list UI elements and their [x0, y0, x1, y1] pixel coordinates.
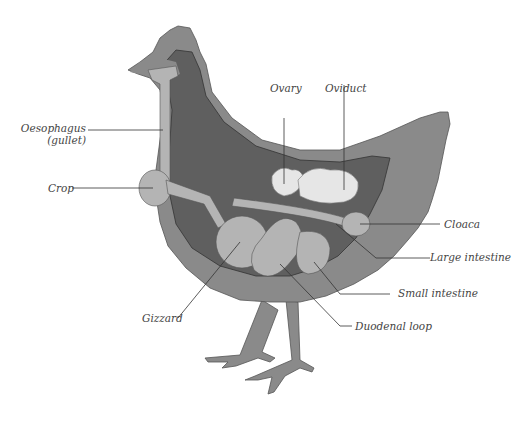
label-small-intestine: Small intestine	[398, 287, 478, 299]
hen-anatomy-diagram	[0, 0, 523, 421]
legs	[205, 300, 314, 394]
label-crop: Crop	[48, 182, 74, 194]
label-oesophagus: Oesophagus (gullet)	[10, 122, 86, 146]
label-gizzard: Gizzard	[142, 312, 183, 324]
label-large-intestine: Large intestine	[430, 251, 511, 263]
label-ovary: Ovary	[270, 82, 302, 94]
label-oviduct: Oviduct	[325, 82, 366, 94]
label-duodenal-loop: Duodenal loop	[355, 320, 432, 332]
label-cloaca: Cloaca	[444, 218, 480, 230]
